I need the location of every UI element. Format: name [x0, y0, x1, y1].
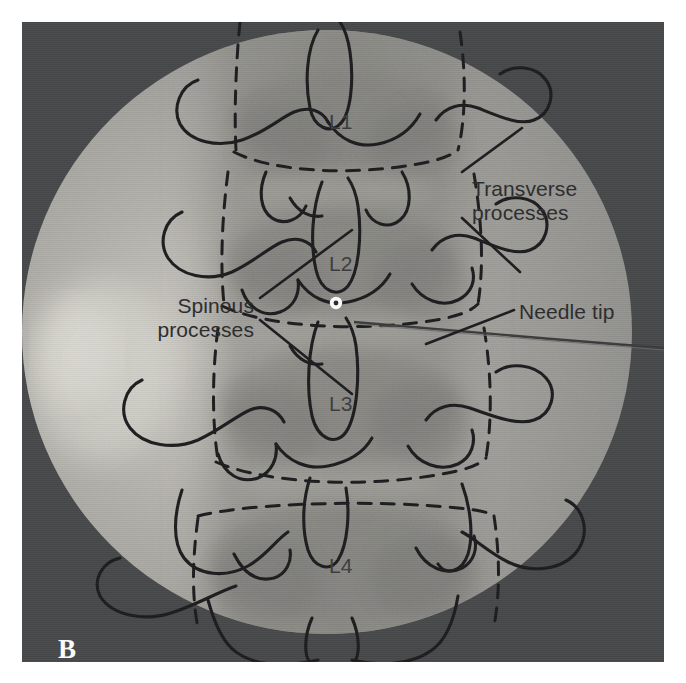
vertebra-label-l3: L3: [329, 393, 352, 415]
vertebra-label-l4: L4: [329, 555, 352, 577]
needle-tip-marker: [330, 297, 342, 309]
annotation-transverse-processes: Transverse processes: [472, 177, 577, 225]
figure-b-fluoroscopic-lumbar-spine: L1 L2 L3 L4 Transverse processes Spinous…: [0, 0, 686, 683]
panel-letter-b: B: [58, 634, 77, 662]
scan-frame: L1 L2 L3 L4 Transverse processes Spinous…: [22, 22, 664, 662]
annotation-needle-tip: Needle tip: [519, 300, 615, 324]
vertebra-label-l2: L2: [329, 253, 352, 275]
vertebra-label-l1: L1: [329, 111, 352, 133]
annotation-spinous-processes: Spinous processes: [118, 294, 254, 342]
